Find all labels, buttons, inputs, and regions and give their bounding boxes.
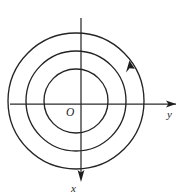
outer-circle [8, 33, 144, 169]
inner-circle [44, 69, 108, 133]
concentric-circles-diagram: O y x [0, 0, 192, 196]
figure-container: O y x [0, 0, 192, 196]
vertical-axis-label: x [70, 182, 76, 194]
middle-circle [26, 51, 126, 151]
origin-label: O [66, 106, 75, 118]
horizontal-axis-label: y [166, 108, 172, 120]
clockwise-direction-arrow [126, 60, 135, 72]
